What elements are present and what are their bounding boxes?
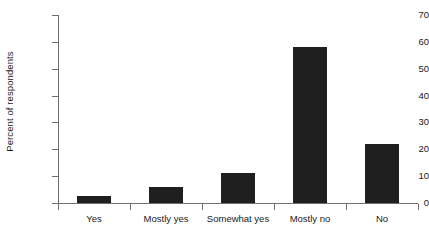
y-axis-line — [58, 15, 59, 204]
y-tick-mark — [52, 69, 58, 70]
y-tick-mark — [52, 96, 58, 97]
bar — [149, 187, 183, 203]
x-tick-mark — [346, 204, 347, 210]
x-axis-line — [58, 203, 418, 204]
x-tick-label: Yes — [58, 214, 130, 224]
y-tick-label: 40 — [383, 91, 429, 101]
bar — [77, 196, 111, 203]
x-tick-mark — [130, 204, 131, 210]
y-tick-label: 70 — [383, 10, 429, 20]
bar-chart: Percent of respondents 010203040506070 Y… — [0, 0, 429, 243]
x-tick-label: No — [346, 214, 418, 224]
x-tick-mark — [418, 204, 419, 210]
x-tick-mark — [202, 204, 203, 210]
bar — [221, 173, 255, 203]
x-tick-mark — [274, 204, 275, 210]
y-axis-title: Percent of respondents — [0, 0, 18, 203]
y-tick-label: 30 — [383, 117, 429, 127]
bar — [365, 144, 399, 203]
y-tick-label: 60 — [383, 37, 429, 47]
y-tick-mark — [52, 176, 58, 177]
x-tick-label: Mostly yes — [130, 214, 202, 224]
x-tick-label: Somewhat yes — [202, 214, 274, 224]
bar — [293, 47, 327, 203]
y-tick-label: 50 — [383, 64, 429, 74]
y-tick-mark — [52, 42, 58, 43]
x-tick-mark — [58, 204, 59, 210]
y-tick-mark — [52, 149, 58, 150]
y-tick-mark — [52, 122, 58, 123]
y-tick-mark — [52, 15, 58, 16]
x-tick-label: Mostly no — [274, 214, 346, 224]
